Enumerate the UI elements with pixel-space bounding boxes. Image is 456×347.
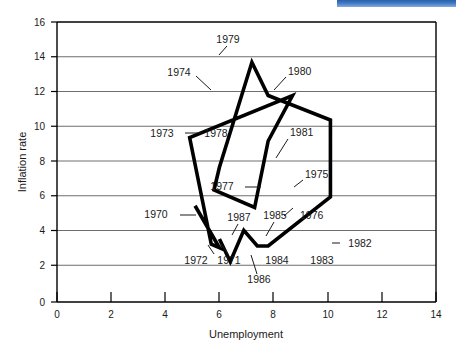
y-tick-label-8: 8: [39, 156, 45, 167]
x-tick-label-14: 14: [430, 309, 442, 320]
label-1978: 1978: [204, 127, 228, 139]
label-1971: 1971: [217, 254, 241, 266]
y-tick-label-14: 14: [34, 51, 46, 62]
y-tick-label-4: 4: [39, 225, 45, 236]
label-1975: 1975: [305, 168, 329, 180]
label-1981: 1981: [290, 126, 314, 138]
y-tick-label-6: 6: [39, 190, 45, 201]
label-1977: 1977: [210, 180, 234, 192]
label-1987: 1987: [227, 211, 251, 223]
x-tick-label-6: 6: [216, 309, 222, 320]
y-tick-label-2: 2: [39, 260, 45, 271]
phillips-curve-chart: 0 2 4 6 8 10 12 14 16 0 2 4 6 8 10 12 14…: [0, 0, 456, 347]
label-1982: 1982: [348, 237, 372, 249]
x-tick-label-8: 8: [270, 309, 276, 320]
label-1985: 1985: [263, 209, 287, 221]
label-1976: 1976: [300, 209, 324, 221]
chart-svg: 0 2 4 6 8 10 12 14 16 0 2 4 6 8 10 12 14…: [0, 0, 456, 347]
label-1980: 1980: [288, 65, 312, 77]
label-1973: 1973: [150, 127, 174, 139]
label-1986: 1986: [247, 273, 271, 285]
x-tick-label-2: 2: [108, 309, 114, 320]
y-tick-label-16: 16: [34, 17, 46, 28]
x-tick-label-0: 0: [54, 309, 60, 320]
y-axis-title: Inflation rate: [16, 132, 28, 193]
label-1984: 1984: [265, 254, 289, 266]
plot-background: [57, 22, 436, 302]
y-tick-labels: 0 2 4 6 8 10 12 14 16: [34, 17, 46, 308]
y-tick-marks: [51, 22, 57, 302]
label-1983: 1983: [310, 254, 334, 266]
y-tick-label-10: 10: [34, 121, 46, 132]
x-tick-label-12: 12: [376, 309, 388, 320]
x-tick-label-4: 4: [162, 309, 168, 320]
label-1970: 1970: [144, 208, 168, 220]
label-1979: 1979: [216, 33, 240, 45]
x-tick-label-10: 10: [322, 309, 334, 320]
label-1974: 1974: [167, 66, 191, 78]
x-axis-title: Unemployment: [209, 328, 283, 340]
y-tick-label-0: 0: [39, 297, 45, 308]
y-tick-label-12: 12: [34, 86, 46, 97]
label-1972: 1972: [184, 254, 208, 266]
x-tick-labels: 0 2 4 6 8 10 12 14: [54, 309, 442, 320]
